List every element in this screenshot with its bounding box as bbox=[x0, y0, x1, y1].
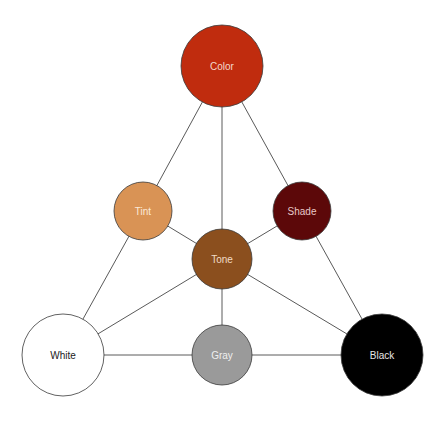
node-color: Color bbox=[181, 25, 263, 107]
node-tone: Tone bbox=[192, 229, 252, 289]
black-label: Black bbox=[370, 350, 395, 361]
color-triangle-diagram: ColorTintShadeToneWhiteGrayBlack bbox=[0, 0, 445, 425]
node-tint: Tint bbox=[114, 182, 172, 240]
connector-lines bbox=[63, 66, 382, 355]
node-white: White bbox=[22, 314, 104, 396]
tint-label: Tint bbox=[135, 206, 152, 217]
tone-label: Tone bbox=[211, 254, 233, 265]
shade-label: Shade bbox=[288, 206, 317, 217]
white-label: White bbox=[50, 350, 76, 361]
node-black: Black bbox=[341, 314, 423, 396]
gray-label: Gray bbox=[211, 350, 233, 361]
node-shade: Shade bbox=[273, 182, 331, 240]
node-gray: Gray bbox=[192, 325, 252, 385]
color-label: Color bbox=[210, 61, 235, 72]
